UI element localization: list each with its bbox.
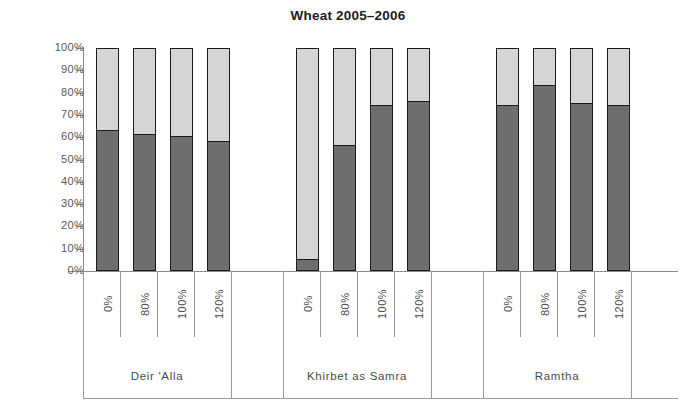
- bar-stack: [407, 48, 430, 271]
- y-axis-tick-label: 100%: [12, 41, 84, 53]
- group-axis-label: Ramtha: [483, 363, 631, 389]
- group-axis-band-bottom-rule: [84, 398, 678, 399]
- bar-stack: [533, 48, 556, 271]
- bar-stack: [207, 48, 230, 271]
- y-axis-tick-label: 30%: [12, 197, 84, 209]
- category-axis-label: 120%: [586, 271, 652, 337]
- bar-segment-lower: [371, 105, 392, 270]
- bar-segment-lower: [408, 101, 429, 270]
- group-separator: [231, 337, 232, 399]
- bar-segment-lower: [97, 130, 118, 270]
- bar-stack: [570, 48, 593, 271]
- group-separator: [631, 337, 632, 399]
- y-axis-tick-label: 90%: [12, 63, 84, 75]
- bar-segment-lower: [571, 103, 592, 270]
- group-axis-label: Khirbet as Samra: [283, 363, 431, 389]
- bar-stack: [370, 48, 393, 271]
- bar-segment-lower: [334, 145, 355, 270]
- y-axis-tick-label: 10%: [12, 242, 84, 254]
- y-axis-tick-label: 80%: [12, 86, 84, 98]
- group-axis-label: Deir 'Alla: [83, 363, 231, 389]
- group-axis-band: Deir 'AllaKhirbet as SamraRamtha: [84, 337, 678, 399]
- bar-segment-lower: [171, 136, 192, 270]
- bar-segment-lower: [134, 134, 155, 270]
- y-axis-tick-label: 20%: [12, 219, 84, 231]
- y-axis-tick-label: 60%: [12, 130, 84, 142]
- bar-segment-lower: [297, 259, 318, 270]
- bar-stack: [133, 48, 156, 271]
- bar-segment-lower: [497, 105, 518, 270]
- bar-segment-lower: [534, 85, 555, 270]
- y-axis-tick-label: 50%: [12, 153, 84, 165]
- y-axis-tick-label: 0%: [12, 264, 84, 276]
- bar-stack: [96, 48, 119, 271]
- category-axis-label: 120%: [186, 271, 252, 337]
- y-axis-tick-label: 70%: [12, 108, 84, 120]
- bar-segment-lower: [208, 141, 229, 270]
- bar-stack: [296, 48, 319, 271]
- category-axis-band: 0%80%100%120%0%80%100%120%0%80%100%120%: [84, 271, 678, 337]
- bar-stack: [333, 48, 356, 271]
- chart-title: Wheat 2005–2006: [0, 8, 696, 23]
- plot-area: [84, 48, 678, 271]
- chart-container: Wheat 2005–2006 100%90%80%70%60%50%40%30…: [0, 0, 696, 408]
- group-separator: [431, 337, 432, 399]
- category-axis-label: 120%: [386, 271, 452, 337]
- bar-stack: [496, 48, 519, 271]
- bar-stack: [607, 48, 630, 271]
- y-axis-tick-label: 40%: [12, 175, 84, 187]
- bar-segment-lower: [608, 105, 629, 270]
- bar-stack: [170, 48, 193, 271]
